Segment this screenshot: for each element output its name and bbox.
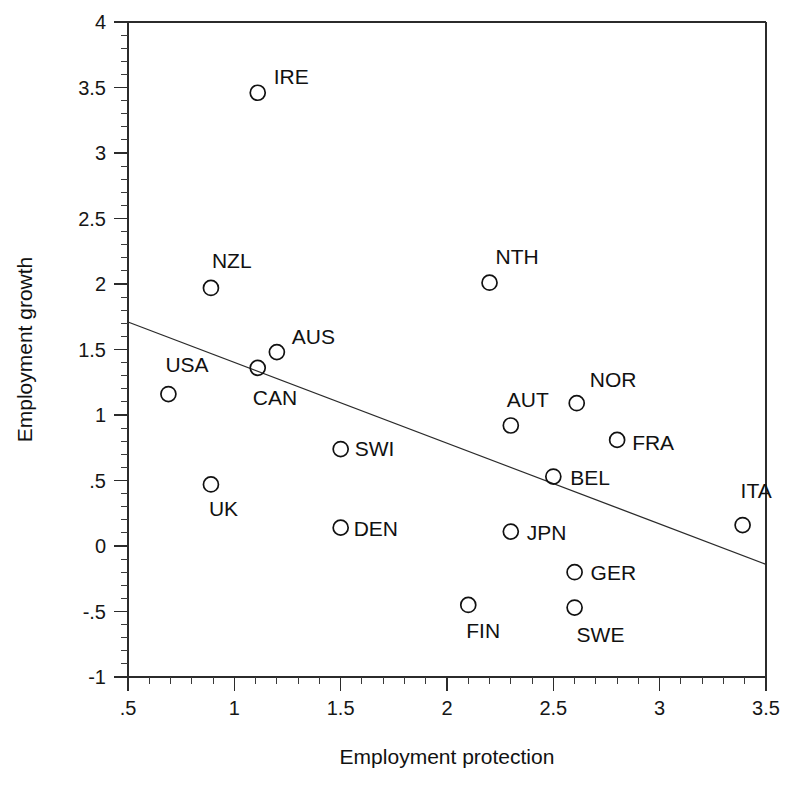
data-point-marker[interactable] — [269, 345, 284, 360]
y-axis-tick-label: 3 — [95, 142, 106, 164]
data-point-label: SWE — [577, 623, 625, 646]
y-axis-tick-label: 0 — [95, 535, 106, 557]
x-axis-tick-label: 2 — [441, 697, 452, 719]
data-point-marker[interactable] — [161, 387, 176, 402]
data-point-label: AUT — [507, 388, 549, 411]
data-point-marker[interactable] — [203, 477, 218, 492]
data-point-label: AUS — [292, 325, 335, 348]
data-point-marker[interactable] — [250, 360, 265, 375]
y-axis-tick-label: 1 — [95, 404, 106, 426]
data-point-label: DEN — [354, 517, 398, 540]
data-point-label: FRA — [632, 431, 674, 454]
y-axis-tick-label: 2.5 — [78, 208, 106, 230]
y-axis-tick-label: 3.5 — [78, 77, 106, 99]
data-point-label: IRE — [274, 65, 309, 88]
data-point-label: BEL — [570, 466, 610, 489]
y-axis-title: Employment growth — [13, 257, 36, 443]
y-axis-tick-label: -.5 — [83, 601, 106, 623]
x-axis-tick-label: 1.5 — [327, 697, 355, 719]
data-point-marker[interactable] — [567, 600, 582, 615]
data-point-marker[interactable] — [546, 469, 561, 484]
axis-lines — [128, 22, 766, 677]
y-axis-tick-label: 4 — [95, 11, 106, 33]
data-point-marker[interactable] — [503, 524, 518, 539]
x-axis-tick-label: .5 — [120, 697, 137, 719]
data-point-label: FIN — [466, 619, 500, 642]
data-point-label: UK — [209, 497, 238, 520]
x-axis-tick-label: 3 — [654, 697, 665, 719]
data-point-label: ITA — [741, 479, 772, 502]
data-point-marker[interactable] — [503, 418, 518, 433]
data-point-marker[interactable] — [333, 442, 348, 457]
data-point-marker[interactable] — [203, 280, 218, 295]
scatter-plot-figure: -1-.50.511.522.533.54.511.522.533.5IRENZ… — [0, 0, 791, 800]
data-point-label: NZL — [212, 249, 252, 272]
data-point-label: JPN — [527, 521, 567, 544]
data-point-marker[interactable] — [250, 85, 265, 100]
y-axis-tick-label: -1 — [88, 666, 106, 688]
data-point-marker[interactable] — [333, 520, 348, 535]
data-point-label: NTH — [496, 245, 539, 268]
x-axis-title: Employment protection — [340, 745, 555, 768]
data-point-marker[interactable] — [569, 396, 584, 411]
data-point-marker[interactable] — [610, 432, 625, 447]
plot-canvas: -1-.50.511.522.533.54.511.522.533.5IRENZ… — [0, 0, 791, 800]
data-point-marker[interactable] — [567, 565, 582, 580]
data-point-marker[interactable] — [482, 275, 497, 290]
x-axis-tick-label: 1 — [229, 697, 240, 719]
y-axis-tick-label: 1.5 — [78, 339, 106, 361]
data-point-label: GER — [591, 561, 637, 584]
data-point-label: CAN — [253, 386, 297, 409]
y-axis-tick-label: 2 — [95, 273, 106, 295]
data-point-label: USA — [165, 353, 208, 376]
data-point-marker[interactable] — [735, 518, 750, 533]
data-point-label: SWI — [355, 437, 395, 460]
data-point-marker[interactable] — [461, 597, 476, 612]
x-axis-tick-label: 3.5 — [752, 697, 780, 719]
x-axis-tick-label: 2.5 — [539, 697, 567, 719]
y-axis-tick-label: .5 — [89, 470, 106, 492]
data-point-label: NOR — [590, 368, 637, 391]
